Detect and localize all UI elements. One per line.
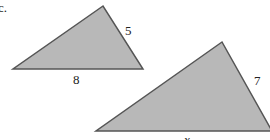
large-triangle-bottom-side-label: x	[183, 132, 190, 140]
small-triangle	[13, 6, 143, 69]
problem-label: c.	[0, 0, 7, 15]
small-triangle-right-side-label: 5	[125, 23, 132, 38]
small-triangle-bottom-side-label: 8	[73, 72, 80, 87]
diagram-canvas: c. 5 8 7 x	[0, 0, 270, 140]
large-triangle-right-side-label: 7	[254, 73, 261, 88]
